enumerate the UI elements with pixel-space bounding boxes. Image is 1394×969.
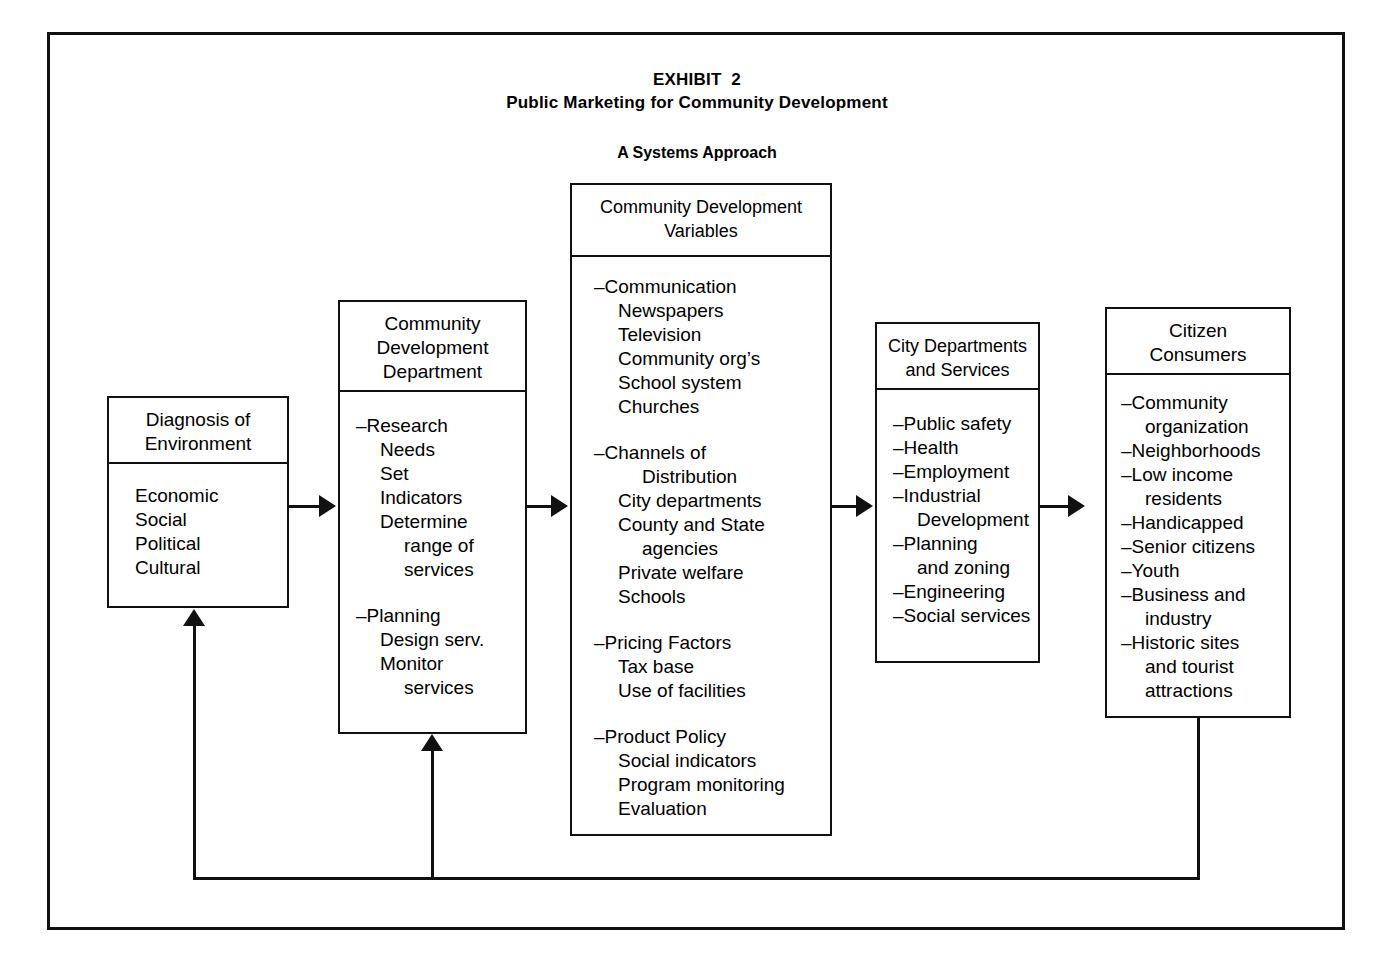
list-spacer	[356, 582, 517, 604]
list-group-communication: –Communication Newspapers Television Com…	[594, 275, 822, 419]
node-citizens-body: –Community organization –Neighborhoods –…	[1107, 375, 1289, 713]
connector-variables-to-city-departments	[832, 505, 858, 508]
list-item: –Historic sites	[1121, 631, 1281, 655]
list-item: Economic	[135, 484, 279, 508]
list-item: Churches	[594, 395, 822, 419]
list-item: and tourist	[1121, 655, 1281, 679]
list-item: –Industrial	[893, 484, 1030, 508]
list-group-heading: –Channels of	[594, 441, 822, 465]
list-item: –Neighborhoods	[1121, 439, 1281, 463]
list-item: and zoning	[893, 556, 1030, 580]
arrowhead-diagnosis-to-department	[319, 495, 336, 517]
list-item: Political	[135, 532, 279, 556]
exhibit-subtitle: A Systems Approach	[0, 142, 1394, 164]
list-item: Private welfare	[594, 561, 822, 585]
list-item: Needs	[356, 438, 517, 462]
list-item: –Community	[1121, 391, 1281, 415]
node-diagnosis-header: Diagnosis of Environment	[109, 398, 287, 464]
feedback-branch-to-department	[431, 750, 434, 878]
connector-diagnosis-to-department	[289, 505, 321, 508]
list-group-research: –Research Needs Set Indicators Determine…	[356, 414, 517, 582]
list-item: Development	[893, 508, 1030, 532]
list-item: attractions	[1121, 679, 1281, 703]
list-item: Program monitoring	[594, 773, 822, 797]
feedback-branch-to-diagnosis	[193, 625, 196, 878]
node-variables-body: –Communication Newspapers Television Com…	[572, 257, 830, 831]
exhibit-title: EXHIBIT 2 Public Marketing for Community…	[0, 68, 1394, 114]
node-variables-header: Community Development Variables	[572, 185, 830, 257]
list-item: organization	[1121, 415, 1281, 439]
node-city-departments-and-services: City Departments and Services –Public sa…	[875, 322, 1040, 663]
arrowhead-department-to-variables	[551, 495, 568, 517]
list-item: School system	[594, 371, 822, 395]
list-item: residents	[1121, 487, 1281, 511]
list-item: –Planning	[893, 532, 1030, 556]
node-citizen-consumers: Citizen Consumers –Community organizatio…	[1105, 307, 1291, 718]
node-diagnosis-body: Economic Social Political Cultural	[109, 464, 287, 590]
list-group-channels-of-distribution: –Channels of Distribution City departmen…	[594, 441, 822, 609]
arrowhead-feedback-to-department	[421, 734, 443, 751]
list-item: Community org’s	[594, 347, 822, 371]
list-group-heading: –Communication	[594, 275, 822, 299]
list-item: services	[356, 558, 517, 582]
list-spacer	[594, 419, 822, 441]
list-item: Design serv.	[356, 628, 517, 652]
list-item: County and State	[594, 513, 822, 537]
list-item: Distribution	[594, 465, 822, 489]
list-item: –Business and	[1121, 583, 1281, 607]
list-group-planning: –Planning Design serv. Monitor services	[356, 604, 517, 700]
node-community-development-department: Community Development Department –Resear…	[338, 300, 527, 734]
connector-department-to-variables	[527, 505, 553, 508]
list-item: range of	[356, 534, 517, 558]
list-item: –Engineering	[893, 580, 1030, 604]
list-item: agencies	[594, 537, 822, 561]
list-item: Schools	[594, 585, 822, 609]
exhibit-subtitle-text: A Systems Approach	[0, 142, 1394, 164]
node-department-body: –Research Needs Set Indicators Determine…	[340, 392, 525, 710]
feedback-line-horizontal	[193, 877, 1200, 880]
list-item: Use of facilities	[594, 679, 822, 703]
list-spacer	[594, 609, 822, 631]
list-item: –Youth	[1121, 559, 1281, 583]
node-community-development-variables: Community Development Variables –Communi…	[570, 183, 832, 836]
list-group-product-policy: –Product Policy Social indicators Progra…	[594, 725, 822, 821]
exhibit-title-line-2: Public Marketing for Community Developme…	[0, 91, 1394, 114]
list-item: Indicators	[356, 486, 517, 510]
list-group-pricing-factors: –Pricing Factors Tax base Use of facilit…	[594, 631, 822, 703]
list-item: –Senior citizens	[1121, 535, 1281, 559]
exhibit-diagram-page: EXHIBIT 2 Public Marketing for Community…	[0, 0, 1394, 969]
list-item: industry	[1121, 607, 1281, 631]
feedback-line-from-citizens	[1197, 718, 1200, 880]
exhibit-title-line-1: EXHIBIT 2	[0, 68, 1394, 91]
node-department-header: Community Development Department	[340, 302, 525, 392]
list-item: Set	[356, 462, 517, 486]
node-diagnosis-of-environment: Diagnosis of Environment Economic Social…	[107, 396, 289, 608]
list-group-heading: –Pricing Factors	[594, 631, 822, 655]
list-item: Social	[135, 508, 279, 532]
list-group-heading: –Product Policy	[594, 725, 822, 749]
node-city-departments-header: City Departments and Services	[877, 324, 1038, 390]
list-item: –Social services	[893, 604, 1030, 628]
list-item: Monitor	[356, 652, 517, 676]
list-item: Evaluation	[594, 797, 822, 821]
list-item: Cultural	[135, 556, 279, 580]
arrowhead-variables-to-city-departments	[856, 495, 873, 517]
list-item: –Public safety	[893, 412, 1030, 436]
list-item: City departments	[594, 489, 822, 513]
arrowhead-feedback-to-diagnosis	[183, 609, 205, 626]
list-group-heading: –Planning	[356, 604, 517, 628]
list-item: –Employment	[893, 460, 1030, 484]
list-item: services	[356, 676, 517, 700]
list-spacer	[594, 703, 822, 725]
list-item: Television	[594, 323, 822, 347]
list-item: Determine	[356, 510, 517, 534]
arrowhead-city-departments-to-citizens	[1068, 495, 1085, 517]
list-group-heading: –Research	[356, 414, 517, 438]
connector-city-departments-to-citizens	[1040, 505, 1070, 508]
list-item: –Health	[893, 436, 1030, 460]
list-item: Newspapers	[594, 299, 822, 323]
list-item: Tax base	[594, 655, 822, 679]
node-citizens-header: Citizen Consumers	[1107, 309, 1289, 375]
list-item: Social indicators	[594, 749, 822, 773]
list-item: –Low income	[1121, 463, 1281, 487]
